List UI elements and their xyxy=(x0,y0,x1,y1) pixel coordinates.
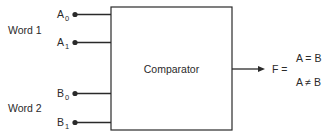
input-b0-subscript: 0 xyxy=(65,93,69,102)
comparator-diagram: Comparator Word 1 Word 2 A 0 A 1 B 0 B 1… xyxy=(0,0,327,135)
input-b1: B 1 xyxy=(57,116,111,131)
input-b1-subscript: 1 xyxy=(65,122,69,131)
output: F = A = B A ≠ B xyxy=(232,52,321,88)
input-b0-name: B xyxy=(57,87,64,99)
input-a0: A 0 xyxy=(57,8,111,23)
input-a1-name: A xyxy=(57,36,64,48)
word-2-label: Word 2 xyxy=(8,102,42,114)
comparator-label: Comparator xyxy=(144,63,200,75)
output-case-equal: A = B xyxy=(296,52,321,64)
input-a1-subscript: 1 xyxy=(65,42,69,51)
input-a1: A 1 xyxy=(57,36,111,51)
input-a0-name: A xyxy=(57,8,64,20)
input-b1-name: B xyxy=(57,116,64,128)
output-case-not-equal: A ≠ B xyxy=(296,76,321,88)
input-a0-subscript: 0 xyxy=(65,14,69,23)
output-label: F = xyxy=(272,63,287,75)
input-b0: B 0 xyxy=(57,87,111,102)
arrow-right-icon xyxy=(258,66,265,72)
word-1-label: Word 1 xyxy=(8,24,42,36)
